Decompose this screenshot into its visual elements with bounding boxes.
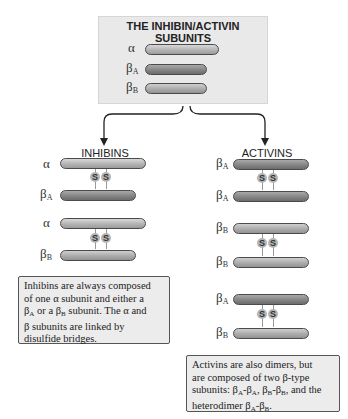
activins-heading: ACTIVINS [222, 147, 312, 159]
activin-2-bottom-label: βB [216, 253, 228, 269]
disulfide-bond: S [101, 172, 111, 182]
disulfide-bond: S [101, 233, 111, 243]
activin-3-beta-b-bar [233, 328, 309, 339]
disulfide-bond: S [268, 173, 278, 183]
disulfide-bond: S [268, 309, 278, 319]
beta-b-subunit-bar [145, 83, 207, 94]
inhibin-2-alpha-label: α [43, 215, 50, 231]
disulfide-bond: S [268, 238, 278, 248]
activins-note: Activins are also dimers, but are compos… [186, 355, 340, 412]
beta-a-subunit-bar [145, 64, 207, 75]
inhibins-note: Inhibins are always composed of one α su… [18, 276, 170, 344]
activin-1-beta-a-bar-2 [233, 191, 309, 202]
activin-1-bottom-label: βA [216, 187, 228, 203]
beta-b-label: βB [126, 79, 138, 95]
inhibin-2-alpha-bar [60, 218, 146, 229]
activin-2-top-label: βB [216, 219, 228, 235]
disulfide-bond: S [257, 309, 267, 319]
activin-3-bottom-label: βB [216, 324, 228, 340]
disulfide-bond: S [90, 233, 100, 243]
inhibin-1-beta-label: βA [40, 186, 52, 202]
inhibin-2-beta-b-bar [60, 250, 136, 261]
inhibin-1-alpha-bar [60, 158, 146, 169]
disulfide-bond: S [257, 238, 267, 248]
inhibin-1-beta-a-bar [60, 190, 136, 201]
alpha-label: α [128, 40, 135, 56]
activin-2-beta-b-bar-2 [233, 257, 309, 268]
branch-arrows [0, 100, 348, 150]
beta-a-label: βA [126, 60, 138, 76]
disulfide-bond: S [90, 172, 100, 182]
activin-2-beta-b-bar [233, 223, 309, 234]
inhibin-2-beta-label: βB [40, 246, 52, 262]
activin-1-top-label: βA [216, 155, 228, 171]
inhibin-1-alpha-label: α [43, 156, 50, 172]
alpha-subunit-bar [145, 44, 219, 55]
activin-1-beta-a-bar [233, 159, 309, 170]
activin-3-top-label: βA [216, 290, 228, 306]
activin-3-beta-a-bar [233, 294, 309, 305]
disulfide-bond: S [257, 173, 267, 183]
